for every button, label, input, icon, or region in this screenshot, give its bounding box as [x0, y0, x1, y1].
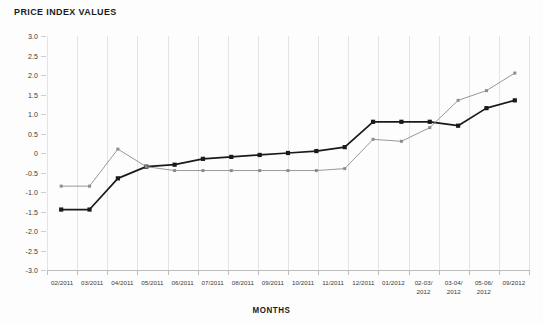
x-axis-tick: [77, 270, 78, 275]
y-axis-tick-label: 3.0: [12, 32, 38, 41]
x-axis-tick: [137, 270, 138, 275]
x-axis-category-label: 10/2011: [292, 278, 314, 287]
price-index-chart: PRICE INDEX VALUES 3.02.52.01.51.00.50-0…: [0, 0, 543, 325]
x-axis-tick: [529, 270, 530, 275]
x-axis-tick: [439, 270, 440, 275]
y-axis-tick: [41, 173, 46, 174]
gridline-vertical: [168, 36, 169, 270]
y-axis-tick: [41, 75, 46, 76]
gridline-vertical: [469, 36, 470, 270]
gridline-vertical: [47, 36, 48, 270]
gridline-vertical: [529, 36, 530, 270]
y-axis-tick-label: -2.5: [12, 246, 38, 255]
y-axis-tick: [41, 114, 46, 115]
gridline-vertical: [198, 36, 199, 270]
x-axis-category-label: 02-03/ 2012: [415, 278, 433, 296]
y-axis-tick-label: -2.0: [12, 227, 38, 236]
y-axis-tick-label: 2.0: [12, 71, 38, 80]
x-axis-tick: [198, 270, 199, 275]
gridline-vertical: [499, 36, 500, 270]
y-axis-tick-label: 2.5: [12, 51, 38, 60]
gridline-vertical: [409, 36, 410, 270]
gridline-vertical: [288, 36, 289, 270]
x-axis-category-label: 08/2011: [232, 278, 254, 287]
x-axis-tick: [348, 270, 349, 275]
x-axis-tick: [47, 270, 48, 275]
x-axis-category-label: 07/2011: [202, 278, 224, 287]
y-axis-tick: [41, 270, 46, 271]
y-axis-tick: [41, 134, 46, 135]
y-axis-tick-label: -3.0: [12, 266, 38, 275]
y-axis-tick: [41, 212, 46, 213]
x-axis-tick: [107, 270, 108, 275]
gridline-vertical: [258, 36, 259, 270]
x-axis-tick: [469, 270, 470, 275]
x-axis-category-label: 03/2011: [81, 278, 103, 287]
x-axis-category-label: 06/2011: [171, 278, 193, 287]
x-axis-category-label: 05/2011: [141, 278, 163, 287]
gridline-vertical: [318, 36, 319, 270]
y-axis-tick: [41, 192, 46, 193]
y-axis-tick-label: 1.0: [12, 110, 38, 119]
y-axis-tick-label: 0: [12, 149, 38, 158]
gridline-vertical: [137, 36, 138, 270]
gridline-vertical: [77, 36, 78, 270]
x-axis-tick: [288, 270, 289, 275]
y-axis-tick-label: -1.0: [12, 188, 38, 197]
y-axis-tick: [41, 153, 46, 154]
y-axis-tick-label: 0.5: [12, 129, 38, 138]
y-axis-labels: 3.02.52.01.51.00.50-0.5-1.0-1.5-2.0-2.5-…: [8, 0, 38, 325]
x-axis-category-label: 05-06/ 2012: [475, 278, 493, 296]
x-axis-category-label: 04/2011: [111, 278, 133, 287]
x-axis-category-label: 01/2012: [382, 278, 405, 287]
gridline-vertical: [228, 36, 229, 270]
x-axis-title: MONTHS: [16, 305, 526, 315]
x-axis-category-label: 11/2011: [322, 278, 344, 287]
x-axis-tick: [378, 270, 379, 275]
x-axis-tick: [168, 270, 169, 275]
y-axis-tick-label: 1.5: [12, 90, 38, 99]
x-axis-tick: [499, 270, 500, 275]
x-axis-category-label: 12/2011: [352, 278, 374, 287]
x-axis-category-label: 09/2012: [503, 278, 526, 287]
gridline-vertical: [348, 36, 349, 270]
y-axis-tick: [41, 231, 46, 232]
x-axis-tick: [318, 270, 319, 275]
plot-area: [47, 36, 529, 270]
y-axis-tick: [41, 95, 46, 96]
x-axis-category-label: 03-04/ 2012: [445, 278, 463, 296]
gridline-vertical: [378, 36, 379, 270]
x-axis-category-label: 09/2011: [262, 278, 284, 287]
y-axis-tick: [41, 251, 46, 252]
gridline-vertical: [439, 36, 440, 270]
x-axis-tick: [258, 270, 259, 275]
y-axis-tick-label: -0.5: [12, 168, 38, 177]
y-axis-tick-label: -1.5: [12, 207, 38, 216]
x-axis-tick: [228, 270, 229, 275]
x-axis-tick: [409, 270, 410, 275]
y-axis-tick: [41, 56, 46, 57]
x-axis-category-label: 02/2011: [51, 278, 73, 287]
gridline-vertical: [107, 36, 108, 270]
y-axis-tick: [41, 36, 46, 37]
